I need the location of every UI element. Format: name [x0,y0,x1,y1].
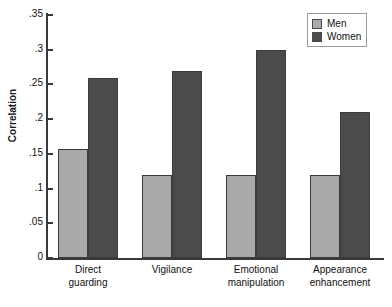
x-axis-label-line: enhancement [292,277,388,290]
y-axis-tick-label: .15 [3,148,43,158]
bar-men [58,149,88,258]
bar-women [88,78,118,259]
x-axis-label-line: Appearance [292,264,388,277]
x-axis-line [46,258,384,260]
y-axis-tick-label: .3 [3,44,43,54]
x-axis-label-line: Vigilance [124,264,220,277]
bar-chart: Correlation .35.3.25.2.15.1.050 Directgu… [0,0,392,307]
y-axis-tick-label: .25 [3,78,43,88]
legend-item-men: Men [312,17,361,30]
legend-swatch-women-icon [312,32,322,42]
bar-men [226,175,256,258]
plot-area [48,15,384,258]
y-axis-tick-label: .1 [3,183,43,193]
y-axis-tick-label: .05 [3,217,43,227]
legend-label-women: Women [327,31,361,42]
bar-men [310,175,340,258]
bar-men [142,175,172,258]
y-axis-tick-label: .2 [3,113,43,123]
bar-women [172,71,202,258]
legend-item-women: Women [312,30,361,43]
x-axis-label-line: guarding [40,277,136,290]
legend: Men Women [307,13,367,47]
bar-women [340,112,370,258]
x-axis-label: Directguarding [40,264,136,289]
x-axis-label-line: Direct [40,264,136,277]
legend-swatch-men-icon [312,19,322,29]
x-axis-label-line: Emotional [208,264,304,277]
x-axis-label: Appearanceenhancement [292,264,388,289]
bar-women [256,50,286,258]
legend-label-men: Men [327,18,346,29]
x-axis-label: Vigilance [124,264,220,277]
x-axis-label-line: manipulation [208,277,304,290]
y-axis-tick-label: 0 [3,252,43,262]
y-axis-tick-label: .35 [3,9,43,19]
x-axis-label: Emotionalmanipulation [208,264,304,289]
